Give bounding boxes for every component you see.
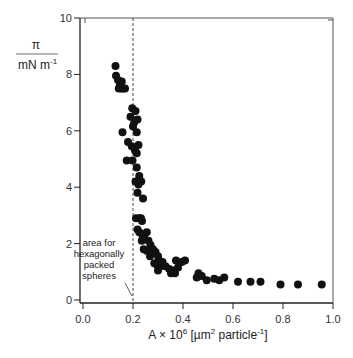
- x-axis-label-unit-particle: particle: [215, 328, 257, 342]
- x-tick-label: 0.4: [175, 313, 190, 325]
- y-axis-label: π mN m-1: [16, 38, 58, 72]
- x-axis-ticks: 0.00.20.40.60.81.0: [75, 303, 340, 325]
- data-point: [234, 278, 242, 286]
- data-point: [118, 77, 126, 85]
- y-axis-label-unit: mN m: [18, 58, 50, 72]
- data-point: [119, 128, 127, 136]
- x-tick-label: 0.8: [275, 313, 290, 325]
- data-point: [112, 62, 120, 70]
- data-point: [318, 280, 326, 288]
- data-point: [129, 156, 137, 164]
- annotation-pointer: [125, 283, 132, 296]
- x-axis-label-close: ]: [264, 328, 267, 342]
- y-tick-label: 8: [66, 68, 72, 80]
- data-point: [146, 252, 154, 260]
- data-point: [138, 217, 146, 225]
- x-tick-label: 0.6: [225, 313, 240, 325]
- annotation-line: hexagonally: [74, 248, 125, 259]
- y-axis-ticks: 0246810: [60, 12, 80, 306]
- annotation-hexagonal-packing: area for hexagonally packed spheres: [74, 237, 132, 296]
- y-axis-label-numerator: π: [32, 38, 40, 52]
- chart: 0.00.20.40.60.81.0 0246810 π mN m-1 A × …: [0, 0, 353, 358]
- annotation-line: area for: [83, 237, 116, 248]
- data-point: [172, 257, 180, 265]
- data-point: [203, 276, 211, 284]
- data-point: [135, 141, 143, 149]
- data-point: [277, 280, 285, 288]
- x-axis-label-prefix: A × 10: [148, 328, 183, 342]
- annotation-line: packed: [84, 259, 115, 270]
- data-point: [133, 163, 141, 171]
- data-point: [134, 116, 142, 124]
- x-tick-label: 0.2: [125, 313, 140, 325]
- plot-frame: [80, 18, 333, 303]
- data-point: [247, 278, 255, 286]
- data-point: [135, 180, 143, 188]
- x-axis-label: A × 106 [µm2 particle-1]: [148, 327, 267, 342]
- data-point: [133, 128, 141, 136]
- y-tick-label: 2: [66, 238, 72, 250]
- y-tick-label: 6: [66, 125, 72, 137]
- y-axis-label-unit-exponent: -1: [50, 57, 58, 66]
- y-tick-label: 0: [66, 294, 72, 306]
- x-tick-label: 1.0: [325, 313, 340, 325]
- x-tick-label: 0.0: [75, 313, 90, 325]
- annotation-line: spheres: [82, 270, 116, 281]
- data-point: [139, 194, 147, 202]
- data-point: [257, 278, 265, 286]
- y-tick-label: 10: [60, 12, 72, 24]
- data-point: [133, 149, 141, 157]
- data-point: [294, 280, 302, 288]
- y-axis-label-denominator: mN m-1: [18, 57, 58, 72]
- y-tick-label: 4: [66, 181, 72, 193]
- data-point: [220, 273, 228, 281]
- data-points: [112, 62, 326, 289]
- x-axis-label-unit: [µm: [187, 328, 211, 342]
- data-point: [154, 266, 162, 274]
- data-point: [181, 257, 189, 265]
- data-point: [121, 85, 129, 93]
